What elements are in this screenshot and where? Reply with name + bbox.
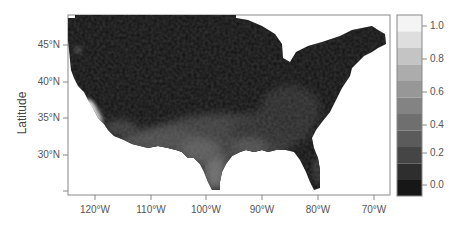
- x-tick-label: 120°W: [75, 204, 115, 215]
- y-tick-label: 45°N: [26, 39, 60, 50]
- colorbar-label: 0.2: [430, 147, 444, 158]
- colorbar-label: 0.8: [430, 53, 444, 64]
- x-axis: [95, 195, 374, 200]
- colorbar-label: 0.4: [430, 119, 444, 130]
- y-tick-label: 30°N: [26, 149, 60, 160]
- colorbar-label: 0.0: [430, 179, 444, 190]
- x-tick-label: 70°W: [354, 204, 394, 215]
- x-tick-label: 100°W: [186, 204, 226, 215]
- colorbar-label: 0.6: [430, 86, 444, 97]
- colorbar-label: 1.0: [430, 20, 444, 31]
- y-tick-label: 40°N: [26, 76, 60, 87]
- y-tick-label: 35°N: [26, 112, 60, 123]
- x-tick-label: 110°W: [131, 204, 171, 215]
- colorbar: [397, 15, 427, 196]
- y-axis: [63, 45, 68, 191]
- x-tick-label: 80°W: [298, 204, 338, 215]
- x-tick-label: 90°W: [242, 204, 282, 215]
- map-figure: [0, 0, 453, 227]
